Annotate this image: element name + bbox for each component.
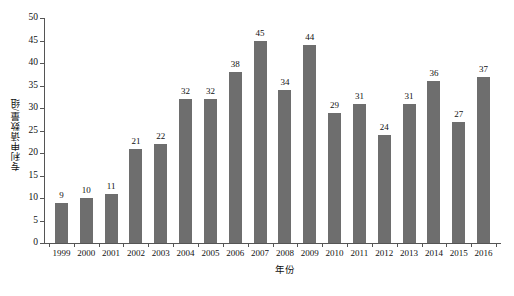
x-tick bbox=[347, 243, 348, 247]
y-tick bbox=[40, 63, 44, 64]
x-tick-label: 2000 bbox=[77, 249, 95, 258]
y-tick bbox=[40, 243, 44, 244]
bar-value-label: 9 bbox=[59, 191, 64, 200]
bar bbox=[55, 203, 68, 244]
bar bbox=[328, 113, 341, 244]
bar-value-label: 45 bbox=[256, 29, 265, 38]
x-tick-label: 2001 bbox=[102, 249, 120, 258]
bar-value-label: 21 bbox=[131, 137, 140, 146]
x-tick bbox=[322, 243, 323, 247]
bar bbox=[204, 99, 217, 243]
bar-value-label: 29 bbox=[330, 101, 339, 110]
y-tick-label: 30 bbox=[29, 103, 39, 113]
y-axis-title: 专利申请数量/组 bbox=[8, 60, 24, 210]
bar-value-label: 10 bbox=[82, 186, 91, 195]
x-tick bbox=[397, 243, 398, 247]
bar bbox=[179, 99, 192, 243]
bar bbox=[129, 149, 142, 244]
y-tick-label: 5 bbox=[33, 216, 38, 226]
bar-value-label: 31 bbox=[355, 92, 364, 101]
y-tick-label: 40 bbox=[29, 58, 39, 68]
x-tick-label: 2003 bbox=[152, 249, 170, 258]
x-tick-label: 2012 bbox=[375, 249, 393, 258]
plot-area: 05101520253035404550 1999200020012002200… bbox=[44, 18, 501, 243]
x-tick bbox=[173, 243, 174, 247]
y-tick-label: 25 bbox=[29, 126, 39, 136]
x-tick-label: 2008 bbox=[276, 249, 294, 258]
x-tick-label: 2015 bbox=[450, 249, 468, 258]
x-tick bbox=[223, 243, 224, 247]
bar-value-label: 32 bbox=[181, 87, 190, 96]
x-tick bbox=[49, 243, 50, 247]
y-tick bbox=[40, 18, 44, 19]
bar bbox=[427, 81, 440, 243]
x-tick bbox=[123, 243, 124, 247]
x-axis-title: 年份 bbox=[275, 262, 295, 276]
y-tick bbox=[40, 41, 44, 42]
x-tick-label: 2010 bbox=[326, 249, 344, 258]
y-tick bbox=[40, 131, 44, 132]
x-tick-label: 2011 bbox=[351, 249, 369, 258]
bar bbox=[80, 198, 93, 243]
x-tick bbox=[273, 243, 274, 247]
bar bbox=[154, 144, 167, 243]
bar bbox=[254, 41, 267, 244]
x-tick bbox=[198, 243, 199, 247]
y-tick-label: 50 bbox=[29, 13, 39, 23]
bar-value-label: 38 bbox=[231, 60, 240, 69]
bar bbox=[303, 45, 316, 243]
bar-value-label: 34 bbox=[280, 78, 289, 87]
y-tick bbox=[40, 86, 44, 87]
x-tick-label: 2007 bbox=[251, 249, 269, 258]
y-tick bbox=[40, 153, 44, 154]
bar-value-label: 32 bbox=[206, 87, 215, 96]
x-tick-label: 2016 bbox=[475, 249, 493, 258]
y-tick-label: 10 bbox=[29, 193, 39, 203]
y-axis-line bbox=[44, 18, 45, 243]
x-tick bbox=[372, 243, 373, 247]
bar-value-label: 24 bbox=[380, 123, 389, 132]
bar-value-label: 31 bbox=[405, 92, 414, 101]
bar bbox=[353, 104, 366, 244]
x-tick bbox=[446, 243, 447, 247]
x-tick-label: 2006 bbox=[226, 249, 244, 258]
x-tick-label: 2005 bbox=[201, 249, 219, 258]
bar-chart: 专利申请数量/组 05101520253035404550 1999200020… bbox=[0, 0, 514, 296]
x-tick-label: 2002 bbox=[127, 249, 145, 258]
bar bbox=[477, 77, 490, 244]
y-tick bbox=[40, 108, 44, 109]
bar bbox=[452, 122, 465, 244]
x-tick bbox=[422, 243, 423, 247]
x-tick bbox=[148, 243, 149, 247]
y-tick bbox=[40, 198, 44, 199]
bar-value-label: 37 bbox=[479, 65, 488, 74]
x-tick bbox=[297, 243, 298, 247]
y-tick-label: 35 bbox=[29, 81, 39, 91]
x-tick bbox=[248, 243, 249, 247]
y-tick bbox=[40, 221, 44, 222]
bar-value-label: 44 bbox=[305, 33, 314, 42]
y-tick bbox=[40, 176, 44, 177]
bar bbox=[105, 194, 118, 244]
x-tick-label: 2009 bbox=[301, 249, 319, 258]
y-tick-label: 20 bbox=[29, 148, 39, 158]
bar-value-label: 22 bbox=[156, 132, 165, 141]
y-tick-label: 45 bbox=[29, 36, 39, 46]
y-tick-label: 15 bbox=[29, 171, 39, 181]
x-tick-label: 2013 bbox=[400, 249, 418, 258]
bar-value-label: 36 bbox=[429, 69, 438, 78]
x-tick-label: 1999 bbox=[52, 249, 70, 258]
bar bbox=[403, 104, 416, 244]
x-tick-label: 2004 bbox=[177, 249, 195, 258]
x-tick-label: 2014 bbox=[425, 249, 443, 258]
bar-value-label: 27 bbox=[454, 110, 463, 119]
y-tick-label: 0 bbox=[33, 238, 38, 248]
x-tick bbox=[99, 243, 100, 247]
x-tick bbox=[496, 243, 497, 247]
bar-value-label: 11 bbox=[107, 182, 116, 191]
bar bbox=[378, 135, 391, 243]
x-tick bbox=[74, 243, 75, 247]
x-tick bbox=[471, 243, 472, 247]
bar bbox=[278, 90, 291, 243]
bar bbox=[229, 72, 242, 243]
